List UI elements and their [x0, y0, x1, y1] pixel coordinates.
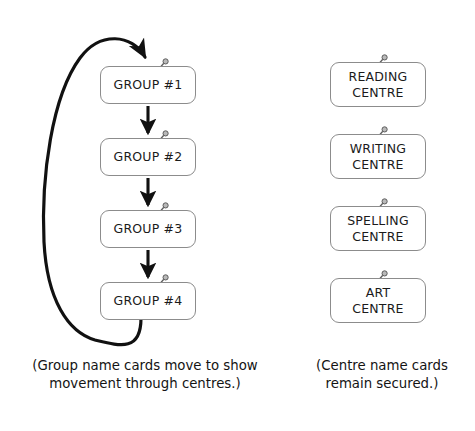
centre-card-label-line1: SPELLING [347, 213, 409, 228]
group-card-label: GROUP #1 [114, 77, 183, 92]
centre-card-label-line2: CENTRE [352, 85, 403, 100]
centre-caption-line1: (Centre name cards [292, 357, 472, 375]
group-card-1[interactable]: GROUP #1 [100, 66, 196, 104]
centre-card-writing[interactable]: WRITING CENTRE [330, 134, 426, 179]
centre-card-reading[interactable]: READING CENTRE [330, 62, 426, 107]
group-caption-line2: movement through centres.) [14, 375, 276, 393]
group-card-label: GROUP #2 [114, 149, 183, 164]
centre-card-art[interactable]: ART CENTRE [330, 278, 426, 323]
centre-card-label-line1: WRITING [350, 141, 407, 156]
centre-card-label-line2: CENTRE [352, 229, 403, 244]
group-column-caption: (Group name cards move to show movement … [14, 357, 276, 393]
group-card-2[interactable]: GROUP #2 [100, 138, 196, 176]
centre-card-label-line2: CENTRE [352, 157, 403, 172]
centre-card-spelling[interactable]: SPELLING CENTRE [330, 206, 426, 251]
centre-card-label-line1: ART [366, 285, 391, 300]
centre-column-caption: (Centre name cards remain secured.) [292, 357, 472, 393]
group-card-4[interactable]: GROUP #4 [100, 282, 196, 320]
centre-card-label-line1: READING [349, 69, 408, 84]
group-card-label: GROUP #4 [114, 293, 183, 308]
centre-card-label-line2: CENTRE [352, 301, 403, 316]
group-card-3[interactable]: GROUP #3 [100, 210, 196, 248]
group-card-label: GROUP #3 [114, 221, 183, 236]
centre-caption-line2: remain secured.) [292, 375, 472, 393]
group-caption-line1: (Group name cards move to show [14, 357, 276, 375]
diagram-canvas: GROUP #1 GROUP #2 GROUP #3 GROUP #4 READ… [0, 0, 475, 431]
